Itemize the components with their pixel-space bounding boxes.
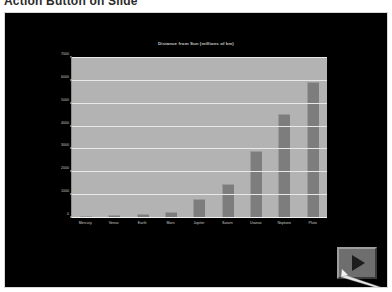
chart-gridline	[72, 126, 327, 127]
chart-x-axis-line	[72, 217, 327, 218]
chart-y-tick-label: 7000	[49, 52, 72, 56]
page-caption: Action Button on Slide	[4, 0, 138, 8]
chart-gridline	[72, 80, 327, 81]
chart-y-tick-label: 2000	[49, 166, 72, 170]
chart-y-tick-mark	[70, 79, 72, 80]
chart-bar	[250, 151, 262, 218]
chart-gridline	[72, 103, 327, 104]
chart-bar	[278, 114, 290, 218]
chart-y-tick-label: 3000	[49, 143, 72, 147]
chart-x-tick-label: Mercury	[71, 221, 99, 225]
chart-x-tick-label: Uranus	[242, 221, 270, 225]
chart-y-tick-mark	[70, 57, 72, 58]
chart-x-axis-labels: MercuryVenusEarthMarsJupiterSaturnUranus…	[71, 219, 327, 233]
action-button-forward[interactable]	[337, 247, 377, 279]
chart-gridline	[72, 148, 327, 149]
chart-gridline	[72, 194, 327, 195]
chart-y-tick-label: 4000	[49, 121, 72, 125]
chart-y-tick-mark	[70, 125, 72, 126]
chart-y-tick-mark	[70, 194, 72, 195]
chart-y-tick-mark	[70, 102, 72, 103]
chart-y-tick-label: 6000	[49, 75, 72, 79]
chart-x-tick-label: Saturn	[213, 221, 241, 225]
chart-x-tick-label: Mars	[156, 221, 184, 225]
chart-y-tick-label: 5000	[49, 98, 72, 102]
chart-x-tick-label: Jupiter	[185, 221, 213, 225]
bar-chart: 01000200030004000500060007000 MercuryVen…	[53, 58, 327, 233]
chart-x-tick-label: Pluto	[299, 221, 327, 225]
chart-title: Distance from Sun (millions of km)	[5, 41, 387, 46]
chart-bar	[222, 184, 234, 218]
chart-y-tick-mark	[70, 171, 72, 172]
chart-y-tick-label: 1000	[49, 189, 72, 193]
chart-x-tick-label: Earth	[128, 221, 156, 225]
slide-canvas[interactable]: Distance from Sun (millions of km) 01000…	[5, 13, 387, 287]
play-triangle-icon	[352, 255, 365, 271]
chart-y-tick-mark	[70, 148, 72, 149]
chart-y-tick-label: 0	[49, 212, 72, 216]
chart-gridline	[72, 57, 327, 58]
chart-gridline	[72, 171, 327, 172]
slide-frame: Distance from Sun (millions of km) 01000…	[4, 12, 388, 288]
chart-bar	[193, 199, 205, 218]
chart-x-tick-label: Neptune	[270, 221, 298, 225]
chart-plot-area: 01000200030004000500060007000	[71, 58, 327, 218]
chart-x-tick-label: Venus	[99, 221, 127, 225]
